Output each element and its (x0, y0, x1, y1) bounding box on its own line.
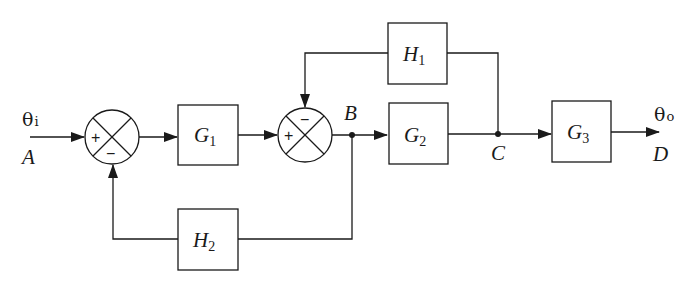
summing-junction-2: + − (278, 108, 332, 162)
h1-feedback-out (305, 53, 388, 107)
block-diagram: θi A + − G1 + − B G2 C H1 (0, 0, 698, 287)
input-theta-label: θi (22, 108, 39, 130)
sj2-minus: − (300, 111, 309, 128)
node-b-label: B (344, 101, 357, 125)
sj2-plus: + (284, 127, 293, 144)
sj1-minus: − (106, 145, 115, 162)
h2-feedback-out (113, 165, 178, 239)
block-g1: G1 (178, 105, 238, 165)
h1-feedback-in (447, 53, 498, 134)
sj1-plus: + (91, 129, 100, 146)
block-g2: G2 (389, 103, 448, 164)
block-h2: H2 (178, 209, 238, 270)
node-a-label: A (20, 145, 35, 169)
summing-junction-1: + − (85, 110, 139, 164)
node-d-label: D (652, 142, 668, 166)
block-h1: H1 (388, 23, 447, 84)
output-theta-label: θo (654, 103, 674, 125)
block-g3: G3 (552, 101, 611, 162)
node-c-label: C (491, 141, 506, 165)
